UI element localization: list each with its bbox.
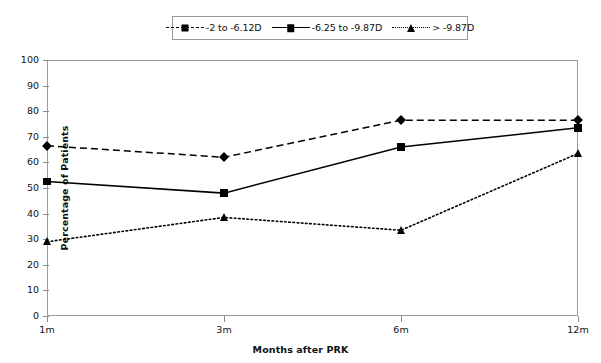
y-axis-tick-label: 70 <box>0 132 39 142</box>
square-marker-icon <box>287 24 295 32</box>
data-point-triangle <box>574 149 582 157</box>
legend-entry-series-1: -2 to -6.12D <box>166 22 262 34</box>
x-axis-tick <box>47 316 48 322</box>
y-axis-tick <box>43 188 49 189</box>
data-point-square <box>397 143 405 151</box>
y-axis-tick <box>43 290 49 291</box>
y-axis-tick <box>43 137 49 138</box>
data-point-triangle <box>220 213 228 221</box>
y-axis-tick-label: 80 <box>0 106 39 116</box>
x-axis-title: Months after PRK <box>0 344 601 355</box>
y-axis-title: Percentage of Patients <box>59 126 70 251</box>
y-axis-tick-label: 30 <box>0 234 39 244</box>
y-axis-tick-label: 20 <box>0 260 39 270</box>
y-axis-tick-label: 50 <box>0 183 39 193</box>
plot-area <box>47 60 578 316</box>
y-axis-tick <box>43 265 49 266</box>
data-point-triangle <box>43 237 51 245</box>
legend-line-sample-dotted-icon <box>392 22 430 34</box>
data-point-square <box>220 189 228 197</box>
y-axis-tick-label: 100 <box>0 55 39 65</box>
x-axis-tick-label: 6m <box>393 325 408 335</box>
y-axis-tick-label: 10 <box>0 286 39 296</box>
y-axis-tick-label: 60 <box>0 158 39 168</box>
legend-line-sample-dashed-icon <box>166 22 204 34</box>
x-axis-tick-label: 12m <box>567 325 588 335</box>
data-point-square <box>574 124 582 132</box>
x-axis-tick-label: 3m <box>216 325 231 335</box>
triangle-marker-icon <box>407 24 415 32</box>
data-point-triangle <box>397 226 405 234</box>
y-axis-tick <box>43 60 49 61</box>
diamond-marker-icon <box>181 25 188 32</box>
x-axis-tick-label: 1m <box>39 325 54 335</box>
legend-label-series-1: -2 to -6.12D <box>206 23 262 33</box>
y-axis-tick <box>43 214 49 215</box>
x-axis-tick <box>224 316 225 322</box>
legend-line-sample-solid-icon <box>272 22 310 34</box>
y-axis-tick <box>43 316 49 317</box>
legend-label-series-3: > -9.87D <box>432 23 474 33</box>
y-axis-tick <box>43 162 49 163</box>
x-axis-tick <box>401 316 402 322</box>
y-axis-tick-label: 90 <box>0 81 39 91</box>
legend-entry-series-3: > -9.87D <box>392 22 474 34</box>
legend-entry-series-2: -6.25 to -9.87D <box>272 22 383 34</box>
legend-label-series-2: -6.25 to -9.87D <box>312 23 383 33</box>
y-axis-tick-label: 40 <box>0 209 39 219</box>
y-axis-tick-label: 0 <box>0 311 39 321</box>
chart-legend: -2 to -6.12D -6.25 to -9.87D > -9.87D <box>172 16 468 40</box>
y-axis-tick <box>43 111 49 112</box>
y-axis-tick <box>43 86 49 87</box>
x-axis-tick <box>578 316 579 322</box>
data-point-square <box>43 178 51 186</box>
